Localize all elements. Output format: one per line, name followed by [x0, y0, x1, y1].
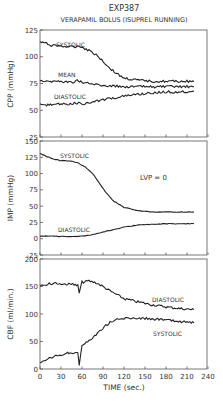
y-tick-label: 125: [25, 154, 38, 162]
label-imp-diastolic: DIASTOLIC: [58, 226, 90, 233]
x-tick-label: 180: [159, 373, 172, 381]
y-tick-label: 50: [29, 203, 38, 211]
y-tick-label: 100: [25, 53, 38, 61]
x-tick-label: 240: [201, 373, 214, 381]
y-tick-label: 100: [25, 311, 38, 319]
y-axis-label-cpp: CPP (mmHg): [6, 60, 15, 108]
y-tick-label: 75: [29, 80, 38, 88]
x-tick-label: 30: [57, 373, 66, 381]
x-tick-label: 90: [99, 373, 108, 381]
y-axis-label-imp: IMP (mmHg): [6, 175, 15, 222]
chart-title: EXP387: [109, 4, 140, 13]
label-cpp-diastolic: DIASTOLIC: [54, 93, 86, 100]
data-lines: [40, 42, 194, 366]
y-tick-label: 100: [25, 170, 38, 178]
chart-figure: EXP387 VERAPAMIL BOLUS (ISUPREL RUNNING)…: [0, 0, 223, 407]
x-tick-label: 150: [138, 373, 151, 381]
y-tick-label: 200: [25, 256, 38, 264]
x-axis-label: TIME (sec.): [102, 383, 144, 392]
series-line: [40, 318, 194, 366]
chart-subtitle: VERAPAMIL BOLUS (ISUPREL RUNNING): [60, 16, 187, 24]
panel-cbf-frame: [40, 259, 207, 369]
label-cpp-systolic: SYSTOLIC: [56, 41, 85, 48]
label-imp-systolic: SYSTOLIC: [60, 152, 89, 159]
x-tick-label: 0: [38, 373, 42, 381]
x-tick-label: 210: [180, 373, 193, 381]
label-cpp-mean: MEAN: [58, 71, 76, 78]
x-tick-label: 60: [78, 373, 87, 381]
label-cbf-diastolic: DIASTOLIC: [152, 296, 184, 303]
y-tick-label: 150: [25, 283, 38, 291]
y-tick-label: 0: [34, 235, 38, 243]
y-tick-label: 150: [25, 138, 38, 146]
series-line: [40, 154, 194, 213]
x-tick-label: 120: [117, 373, 130, 381]
y-axis-label-cbf: CBF (ml/min.): [6, 288, 15, 339]
y-tick-label: 75: [29, 186, 38, 194]
y-tick-label: 25: [29, 219, 38, 227]
label-cbf-systolic: SYSTOLIC: [153, 330, 182, 337]
y-tick-label: 125: [25, 27, 38, 35]
y-tick-label: 50: [29, 338, 38, 346]
annotation-lvp: LVP = 0: [140, 174, 167, 182]
y-tick-label: 50: [29, 107, 38, 115]
chart-svg: EXP387 VERAPAMIL BOLUS (ISUPREL RUNNING)…: [0, 0, 223, 407]
axis-ticks: 255075100125-250255075100125150050100150…: [25, 27, 215, 382]
